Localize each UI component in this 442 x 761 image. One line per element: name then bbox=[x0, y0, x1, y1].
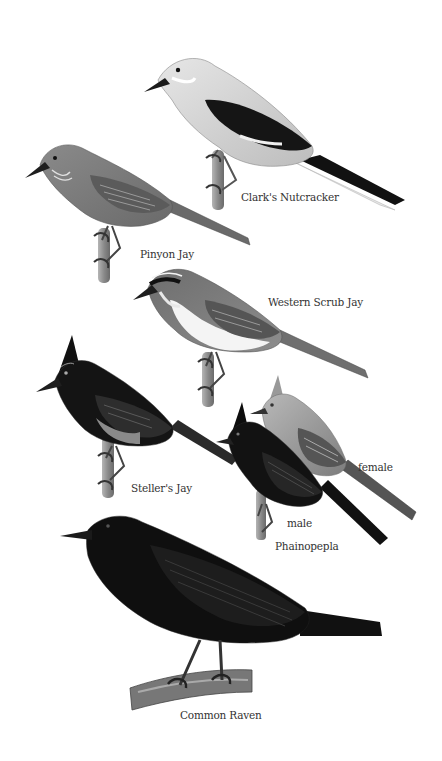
label-common-raven: Common Raven bbox=[180, 709, 262, 721]
label-stellers-jay: Steller's Jay bbox=[131, 482, 192, 494]
bird-plate: Clark's Nutcracker Pinyon Jay Western Sc… bbox=[0, 0, 442, 761]
bird-illustrations bbox=[0, 0, 442, 761]
label-western-scrub-jay: Western Scrub Jay bbox=[268, 296, 363, 308]
western-scrub-jay-illustration bbox=[133, 269, 368, 407]
label-clarks-nutcracker: Clark's Nutcracker bbox=[241, 191, 339, 203]
label-phainopepla-male: male bbox=[287, 517, 312, 529]
label-phainopepla: Phainopepla bbox=[275, 540, 339, 552]
label-phainopepla-female: female bbox=[358, 461, 393, 473]
clarks-nutcracker-illustration bbox=[144, 58, 405, 210]
label-pinyon-jay: Pinyon Jay bbox=[140, 248, 194, 260]
